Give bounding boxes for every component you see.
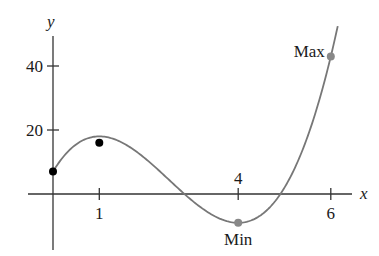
annotation-min: Min [224,230,253,249]
annotation-max: Max [294,42,326,61]
point-min [234,219,242,227]
y-axis-label: y [45,12,55,31]
function-plot: x y 146 2040 MinMax [0,0,379,256]
x-axis-label: x [359,184,368,203]
annotations: MinMax [224,42,325,248]
point [49,168,57,176]
chart-container: x y 146 2040 MinMax [0,0,379,256]
x-tick-label: 4 [234,169,243,188]
point-max [327,52,335,60]
y-ticks: 2040 [26,57,59,140]
x-tick-label: 1 [95,204,104,223]
x-ticks: 146 [95,169,335,223]
y-tick-label: 20 [26,121,43,140]
point [95,139,103,147]
x-tick-label: 6 [327,204,336,223]
y-tick-label: 40 [26,57,43,76]
